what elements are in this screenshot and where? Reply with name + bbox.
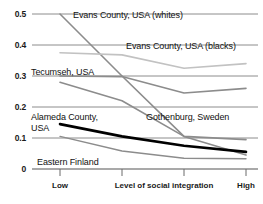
ytick-label-0: 0 xyxy=(2,164,26,174)
series-line-evans-county-usa-blacks xyxy=(60,53,246,69)
series-label-tecumseh-usa: Tecumseh, USA xyxy=(31,67,94,78)
ytick-label-0.4: 0.4 xyxy=(2,40,26,50)
gridlines xyxy=(32,14,258,169)
series-line-eastern-finland xyxy=(60,136,246,158)
series-label-eastern-finland: Eastern Finland xyxy=(37,157,99,168)
xtick-label-low: Low xyxy=(42,181,78,190)
ytick-label-0.1: 0.1 xyxy=(2,133,26,143)
x-axis-ticks xyxy=(60,169,246,176)
series-label-gothenburg-sweden: Gothenburg, Sweden xyxy=(146,112,229,123)
ytick-label-0.5: 0.5 xyxy=(2,9,26,19)
chart-figure: 0.5 0.4 0.3 0.2 0.1 0 Low Level of socia… xyxy=(0,0,263,204)
series-label-alameda-county-usa-line1: Alameda County, xyxy=(31,112,98,123)
ytick-label-0.2: 0.2 xyxy=(2,102,26,112)
xtick-label-high: High xyxy=(228,181,263,190)
series-label-evans-county-usa-whites: Evans County, USA (whites) xyxy=(73,10,183,21)
series-label-evans-county-usa-blacks: Evans County, USA (blacks) xyxy=(126,41,236,52)
ytick-label-0.3: 0.3 xyxy=(2,71,26,81)
x-axis-title: Level of social integration xyxy=(104,181,224,190)
series-label-alameda-county-usa-line2: USA xyxy=(31,123,49,134)
line-chart-plot xyxy=(0,0,263,204)
series-lines xyxy=(60,14,246,159)
